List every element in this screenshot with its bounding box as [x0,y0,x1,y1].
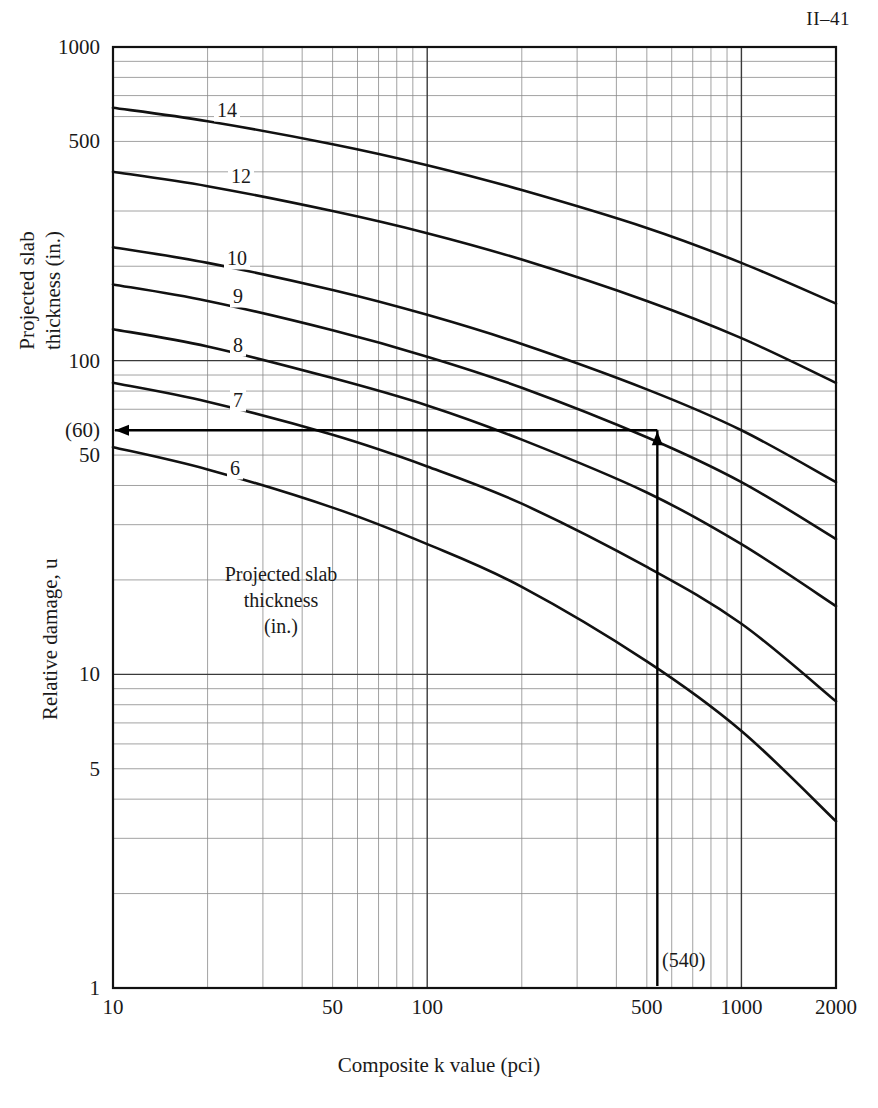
curve-label-6: 6 [227,457,243,480]
y-axis-title-top: Projected slab thickness (in.) [14,231,67,350]
x-tick-2000: 2000 [791,995,878,1020]
y-tick-50: 50 [8,443,100,468]
y-axis-title-bottom: Relative damage, u [38,558,63,720]
curve-label-7: 7 [230,389,246,412]
curve-10 [113,247,836,482]
curve-label-9: 9 [230,285,246,308]
x-tick-10: 10 [68,995,158,1020]
plot-canvas [0,0,878,1108]
curve-label-10: 10 [224,247,250,270]
data-curves [113,108,836,822]
plot-note-line3: (in.) [196,613,366,639]
plot-note-line1: Projected slab [196,561,366,587]
y-axis-title-top-line2: thickness (in.) [40,231,66,350]
y-tick-100: 100 [8,348,100,373]
y-tick-500: 500 [8,129,100,154]
x-axis-title: Composite k value (pci) [0,1053,878,1078]
curve-12 [113,172,836,383]
plot-annotation-note: Projected slab thickness (in.) [196,561,366,639]
chart-figure: 1000500100(60)501051 105010050010002000 … [0,0,878,1108]
curve-label-8: 8 [230,334,246,357]
y-tick-5: 5 [8,756,100,781]
curve-label-12: 12 [228,165,254,188]
curve-14 [113,108,836,304]
x-tick-500: 500 [602,995,692,1020]
horizontal-arrowhead [115,425,129,436]
x-tick-50: 50 [288,995,378,1020]
plot-note-line2: thickness [196,587,366,613]
curve-label-14: 14 [214,99,240,122]
x-readout-annotation: (540) [662,949,705,972]
y-axis-title-top-line1: Projected slab [14,231,40,350]
curve-9 [113,284,836,539]
x-tick-100: 100 [382,995,472,1020]
y-tick-60: (60) [8,418,100,443]
construction-arrows [115,425,663,986]
vertical-arrowhead [652,431,663,445]
y-tick-1000: 1000 [8,35,100,60]
x-tick-1000: 1000 [696,995,786,1020]
